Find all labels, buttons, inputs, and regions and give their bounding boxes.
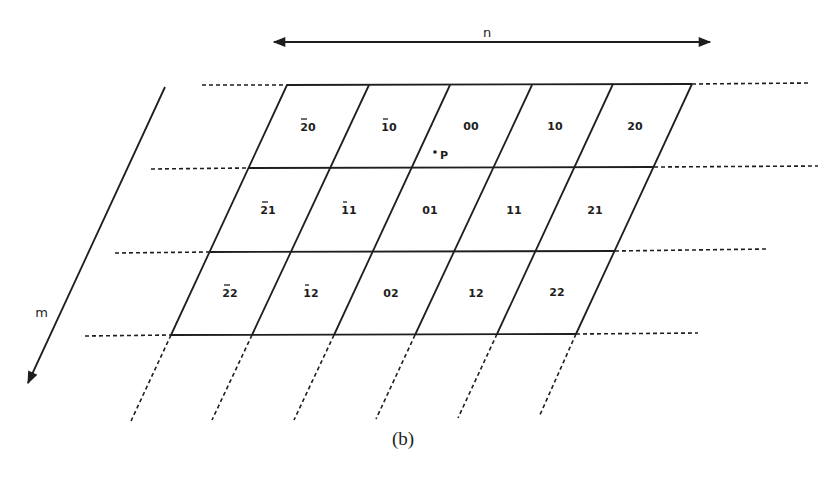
cell-label: 00 [463,120,479,133]
row-line-0 [287,84,692,85]
cell-label: 11 [341,202,356,217]
svg-text:11: 11 [341,204,356,217]
cell-labels: 20 10 00 10 20 21 11 01 11 21 22 12 02 [222,119,643,300]
point-p: P [433,149,448,162]
m-axis: m [28,87,165,383]
column-extensions-dashed [131,334,576,421]
cell-label: 20 [300,119,316,134]
row-extensions-dashed [85,83,818,336]
cell-label: 12 [468,287,483,300]
cell-label: 10 [547,120,563,133]
cell-label: 21 [587,204,602,217]
row-line-2 [210,251,615,252]
m-axis-label: m [35,305,48,320]
m-axis-arrow-icon [28,87,165,383]
n-axis-label: n [483,25,491,40]
cell-label: 11 [506,204,521,217]
cell-label: 10 [381,119,397,134]
row-line-1 [248,167,654,168]
oblique-lattice-diagram: n m [0,0,832,488]
cell-label: 02 [383,287,398,300]
figure-caption: (b) [392,428,414,450]
svg-text:12: 12 [303,287,318,300]
svg-text:10: 10 [381,121,397,134]
cell-label: 20 [627,120,643,133]
cell-label: 12 [303,285,318,300]
row-line-3 [171,334,576,335]
cell-label: 21 [260,202,275,217]
cell-label: 01 [422,204,437,217]
cell-label: 22 [549,286,564,299]
cell-label: 22 [222,285,237,300]
point-dot-icon [433,150,437,154]
svg-text:20: 20 [300,121,316,134]
svg-text:21: 21 [260,204,275,217]
point-p-label: P [440,149,448,162]
svg-text:22: 22 [222,287,237,300]
n-axis: n [274,25,710,42]
